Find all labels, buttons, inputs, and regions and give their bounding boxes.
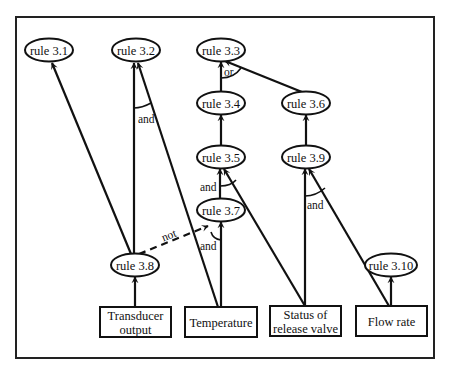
edge-r38-r31: [52, 63, 131, 254]
rule-node-3-8[interactable]: rule 3.8: [111, 254, 159, 277]
rule-node-3-5[interactable]: rule 3.5: [197, 146, 245, 169]
edge-status-r35: [224, 169, 305, 306]
input-label: Temperature: [190, 316, 253, 330]
input-box-temperature[interactable]: Temperature: [185, 307, 257, 337]
rule-node-3-1[interactable]: rule 3.1: [25, 39, 73, 62]
rule-node-3-2[interactable]: rule 3.2: [112, 39, 160, 62]
input-nodes: Transducer output Temperature Status of …: [100, 306, 427, 337]
input-box-status-of-release-valve[interactable]: Status of release valve: [270, 306, 341, 336]
label-and-r35: and: [200, 181, 217, 193]
rule-node-3-10[interactable]: rule 3.10: [365, 254, 417, 277]
inference-network-diagram: and or and and and not rule 3.1 rule 3.2…: [0, 0, 449, 374]
label-and-r32: and: [138, 113, 155, 125]
rule-label: rule 3.10: [369, 259, 413, 273]
edge-flow-r39: [309, 169, 389, 306]
label-not: not: [160, 227, 179, 244]
rule-label: rule 3.6: [287, 97, 325, 111]
rule-label: rule 3.5: [202, 151, 240, 165]
rule-label: rule 3.2: [117, 44, 155, 58]
rule-node-3-7[interactable]: rule 3.7: [197, 199, 245, 222]
rule-node-3-3[interactable]: rule 3.3: [197, 39, 245, 62]
rule-label: rule 3.3: [202, 44, 240, 58]
rule-label: rule 3.8: [116, 259, 154, 273]
rule-node-3-4[interactable]: rule 3.4: [197, 92, 245, 115]
and-arc-r37: [211, 232, 221, 240]
label-and-r39: and: [307, 199, 324, 211]
input-box-flow-rate[interactable]: Flow rate: [356, 306, 427, 336]
input-label-line1: Transducer: [108, 309, 165, 323]
rule-label: rule 3.9: [287, 151, 325, 165]
input-box-transducer-output[interactable]: Transducer output: [100, 307, 171, 337]
and-arc-r32: [134, 103, 151, 108]
rule-label: rule 3.4: [202, 97, 241, 111]
label-and-r37: and: [200, 240, 217, 252]
rule-label: rule 3.7: [202, 204, 240, 218]
rule-label: rule 3.1: [30, 44, 68, 58]
input-label-line2: output: [120, 323, 152, 337]
input-label-line1: Status of: [283, 308, 328, 322]
input-label-line2: release valve: [273, 322, 338, 336]
rule-node-3-6[interactable]: rule 3.6: [282, 92, 330, 115]
rule-node-3-9[interactable]: rule 3.9: [282, 146, 330, 169]
input-label: Flow rate: [368, 315, 416, 329]
edge-r36-r33: [225, 61, 302, 92]
label-or-r33: or: [224, 66, 234, 78]
